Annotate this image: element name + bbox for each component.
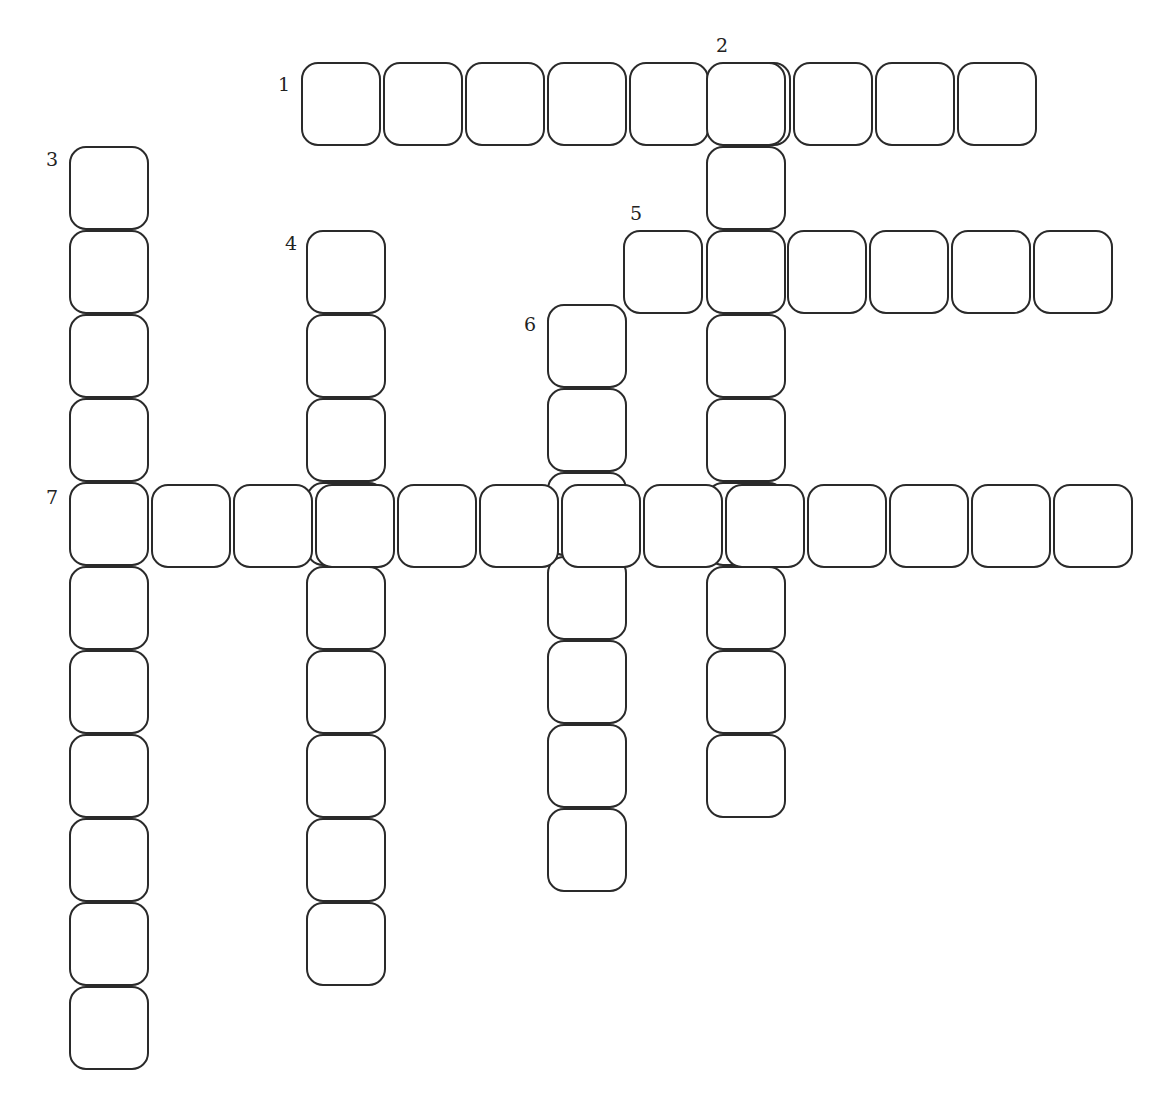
crossword-cell[interactable]: [306, 230, 386, 314]
clue-number-1: 1: [278, 75, 290, 94]
crossword-cell[interactable]: [706, 146, 786, 230]
crossword-grid: 1234567: [0, 0, 1150, 1098]
clue-number-7: 7: [46, 488, 58, 507]
crossword-cell[interactable]: [69, 398, 149, 482]
crossword-cell[interactable]: [315, 484, 395, 568]
crossword-cell[interactable]: [706, 230, 786, 314]
crossword-cell[interactable]: [547, 556, 627, 640]
crossword-cell[interactable]: [623, 230, 703, 314]
crossword-cell[interactable]: [69, 734, 149, 818]
crossword-cell[interactable]: [69, 146, 149, 230]
crossword-cell[interactable]: [706, 62, 786, 146]
crossword-cell[interactable]: [889, 484, 969, 568]
crossword-cell[interactable]: [306, 566, 386, 650]
clue-number-5: 5: [630, 204, 642, 223]
crossword-cell[interactable]: [151, 484, 231, 568]
crossword-cell[interactable]: [479, 484, 559, 568]
crossword-cell[interactable]: [69, 230, 149, 314]
crossword-cell[interactable]: [706, 398, 786, 482]
crossword-cell[interactable]: [69, 482, 149, 566]
crossword-cell[interactable]: [875, 62, 955, 146]
crossword-cell[interactable]: [306, 650, 386, 734]
crossword-cell[interactable]: [547, 388, 627, 472]
crossword-cell[interactable]: [793, 62, 873, 146]
crossword-cell[interactable]: [306, 818, 386, 902]
crossword-cell[interactable]: [706, 734, 786, 818]
crossword-cell[interactable]: [69, 314, 149, 398]
crossword-cell[interactable]: [69, 902, 149, 986]
crossword-cell[interactable]: [301, 62, 381, 146]
clue-number-4: 4: [285, 234, 297, 253]
crossword-cell[interactable]: [869, 230, 949, 314]
crossword-cell[interactable]: [706, 314, 786, 398]
crossword-cell[interactable]: [233, 484, 313, 568]
crossword-cell[interactable]: [547, 808, 627, 892]
crossword-cell[interactable]: [787, 230, 867, 314]
clue-number-3: 3: [46, 150, 58, 169]
crossword-cell[interactable]: [69, 566, 149, 650]
crossword-cell[interactable]: [706, 566, 786, 650]
crossword-cell[interactable]: [69, 986, 149, 1070]
crossword-cell[interactable]: [547, 304, 627, 388]
crossword-cell[interactable]: [547, 724, 627, 808]
clue-number-2: 2: [716, 36, 728, 55]
crossword-cell[interactable]: [547, 640, 627, 724]
crossword-cell[interactable]: [547, 62, 627, 146]
crossword-cell[interactable]: [951, 230, 1031, 314]
crossword-cell[interactable]: [69, 650, 149, 734]
crossword-cell[interactable]: [306, 902, 386, 986]
crossword-cell[interactable]: [561, 484, 641, 568]
crossword-cell[interactable]: [306, 314, 386, 398]
crossword-cell[interactable]: [465, 62, 545, 146]
crossword-cell[interactable]: [957, 62, 1037, 146]
crossword-cell[interactable]: [629, 62, 709, 146]
crossword-cell[interactable]: [397, 484, 477, 568]
crossword-cell[interactable]: [643, 484, 723, 568]
crossword-cell[interactable]: [971, 484, 1051, 568]
clue-number-6: 6: [524, 315, 536, 334]
crossword-cell[interactable]: [725, 484, 805, 568]
crossword-cell[interactable]: [706, 650, 786, 734]
crossword-cell[interactable]: [383, 62, 463, 146]
crossword-cell[interactable]: [69, 818, 149, 902]
crossword-cell[interactable]: [1053, 484, 1133, 568]
crossword-cell[interactable]: [306, 734, 386, 818]
crossword-cell[interactable]: [1033, 230, 1113, 314]
crossword-cell[interactable]: [807, 484, 887, 568]
crossword-cell[interactable]: [306, 398, 386, 482]
